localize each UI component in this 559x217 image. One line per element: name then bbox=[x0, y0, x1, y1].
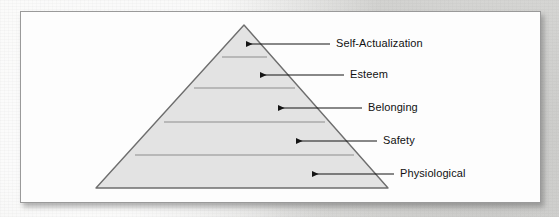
tier-label-esteem: Esteem bbox=[350, 69, 388, 80]
tier-label-belonging: Belonging bbox=[368, 102, 418, 113]
tier-label-physiological: Physiological bbox=[400, 168, 466, 179]
tier-label-self-actualization: Self-Actualization bbox=[336, 38, 423, 49]
tier-label-safety: Safety bbox=[383, 135, 415, 146]
